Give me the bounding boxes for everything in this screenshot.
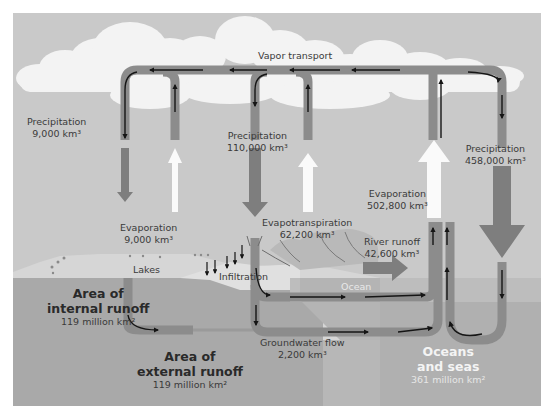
internal-runoff-value: 119 million km²: [47, 316, 149, 328]
precip-right-title: Precipitation: [465, 143, 526, 155]
label-precip-right: Precipitation 458,000 km³: [465, 143, 526, 167]
precip-right-value: 458,000 km³: [465, 155, 526, 167]
label-evap-left: Evaporation 9,000 km³: [120, 222, 177, 246]
oceans-value: 361 million km²: [411, 374, 485, 386]
river-runoff-title: River runoff: [364, 236, 420, 248]
evap-ocean-value: 502,800 km³: [367, 200, 428, 212]
label-groundwater: Groundwater flow 2,200 km³: [260, 337, 345, 361]
label-river-runoff: River runoff 42,600 km³: [364, 236, 420, 260]
label-oceans-seas: Oceans and seas 361 million km²: [411, 344, 485, 386]
label-external-runoff: Area of external runoff 119 million km²: [137, 349, 243, 391]
river-runoff-value: 42,600 km³: [364, 248, 420, 260]
label-lakes: Lakes: [133, 264, 160, 276]
groundwater-title: Groundwater flow: [260, 337, 345, 349]
evap-left-title: Evaporation: [120, 222, 177, 234]
evap-left-value: 9,000 km³: [120, 234, 177, 246]
oceans-line1: Oceans: [411, 344, 485, 359]
external-runoff-line1: Area of: [137, 349, 243, 364]
label-precip-mid: Precipitation 110,000 km³: [227, 130, 288, 154]
internal-runoff-line1: Area of: [47, 286, 149, 301]
precip-mid-title: Precipitation: [227, 130, 288, 142]
evapotranspiration-title: Evapotranspiration: [262, 217, 352, 229]
label-infiltration: Infiltration: [219, 271, 268, 283]
evap-ocean-title: Evaporation: [367, 188, 428, 200]
label-evapotranspiration: Evapotranspiration 62,200 km³: [262, 217, 352, 241]
precip-left-value: 9,000 km³: [27, 128, 86, 140]
label-vapor-transport: Vapor transport: [258, 50, 332, 62]
internal-runoff-line2: internal runoff: [47, 301, 149, 316]
precip-left-title: Precipitation: [27, 116, 86, 128]
precip-mid-value: 110,000 km³: [227, 142, 288, 154]
external-runoff-line2: external runoff: [137, 364, 243, 379]
oceans-line2: and seas: [411, 359, 485, 374]
label-evap-ocean: Evaporation 502,800 km³: [367, 188, 428, 212]
label-precip-left: Precipitation 9,000 km³: [27, 116, 86, 140]
label-ocean: Ocean: [341, 281, 371, 293]
groundwater-value: 2,200 km³: [260, 349, 345, 361]
label-internal-runoff: Area of internal runoff 119 million km²: [47, 286, 149, 328]
external-runoff-value: 119 million km²: [137, 379, 243, 391]
evapotranspiration-value: 62,200 km³: [262, 229, 352, 241]
